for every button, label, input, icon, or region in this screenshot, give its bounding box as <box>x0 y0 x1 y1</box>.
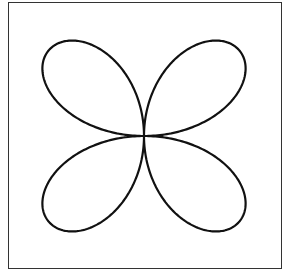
rose-curve <box>42 41 245 232</box>
rose-curve-plot <box>0 0 288 274</box>
